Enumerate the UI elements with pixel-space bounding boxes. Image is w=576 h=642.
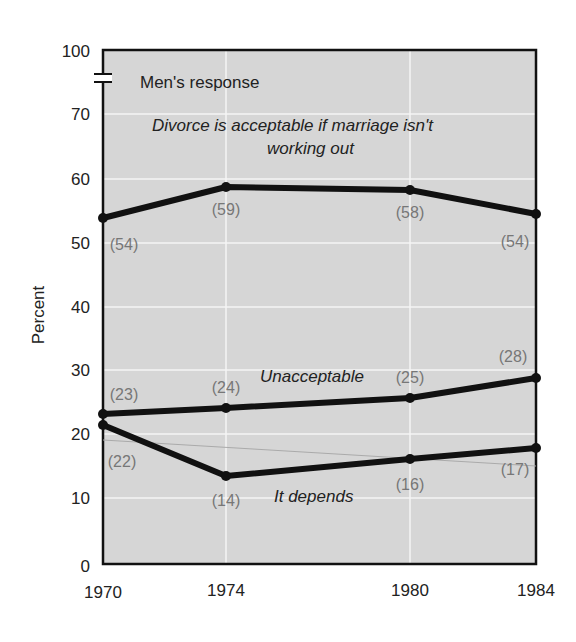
y-axis-ticks: 100 70 60 50 40 30 20 10 0	[62, 42, 90, 576]
svg-text:50: 50	[71, 234, 90, 253]
svg-text:30: 30	[71, 361, 90, 380]
svg-text:(58): (58)	[396, 204, 424, 221]
axis-break	[94, 74, 112, 82]
svg-text:0: 0	[81, 557, 90, 576]
svg-text:(25): (25)	[396, 369, 424, 386]
annotation-unacceptable: Unacceptable	[260, 367, 364, 386]
svg-text:(28): (28)	[499, 348, 527, 365]
svg-text:1984: 1984	[517, 581, 555, 600]
svg-text:1974: 1974	[207, 581, 245, 600]
svg-text:20: 20	[71, 425, 90, 444]
svg-text:(54): (54)	[501, 233, 529, 250]
chart-title: Men's response	[140, 73, 259, 92]
line-chart: 100 70 60 50 40 30 20 10 0 Percent 1970 …	[0, 0, 576, 642]
annotation-acceptable-line2: working out	[267, 139, 355, 158]
svg-text:(23): (23)	[110, 386, 138, 403]
svg-text:(14): (14)	[212, 492, 240, 509]
svg-text:70: 70	[71, 105, 90, 124]
svg-text:(24): (24)	[212, 379, 240, 396]
svg-text:1980: 1980	[391, 581, 429, 600]
svg-text:(54): (54)	[110, 236, 138, 253]
annotation-acceptable-line1: Divorce is acceptable if marriage isn't	[152, 116, 434, 135]
svg-text:(59): (59)	[212, 201, 240, 218]
svg-text:100: 100	[62, 42, 90, 61]
svg-text:(16): (16)	[396, 476, 424, 493]
svg-text:(17): (17)	[501, 461, 529, 478]
annotation-depends: It depends	[274, 487, 354, 506]
y-axis-label: Percent	[29, 285, 48, 344]
svg-text:40: 40	[71, 298, 90, 317]
svg-text:10: 10	[71, 489, 90, 508]
x-axis-ticks: 1970 1974 1980 1984	[84, 581, 555, 602]
svg-text:60: 60	[71, 170, 90, 189]
svg-text:(22): (22)	[108, 453, 136, 470]
svg-text:1970: 1970	[84, 583, 122, 602]
